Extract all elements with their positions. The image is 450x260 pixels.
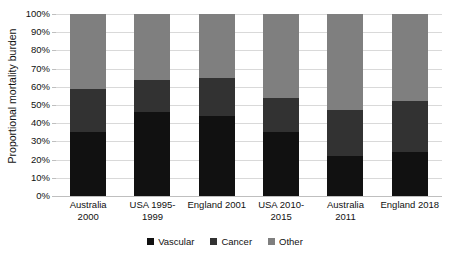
x-axis-tick-label: England 2018 xyxy=(378,199,442,222)
stacked-bar[interactable] xyxy=(327,14,363,196)
bar-segment-other[interactable] xyxy=(263,14,299,98)
bar-segment-cancer[interactable] xyxy=(199,78,235,116)
bar-slot xyxy=(56,14,120,196)
y-axis-tick-label: 80% xyxy=(0,45,50,55)
bar-segment-vascular[interactable] xyxy=(134,112,170,196)
bar-slot xyxy=(249,14,313,196)
bar-segment-cancer[interactable] xyxy=(327,110,363,156)
bar-segment-other[interactable] xyxy=(327,14,363,110)
x-axis-label-line: 2011 xyxy=(314,211,376,223)
gridline xyxy=(56,196,442,197)
x-axis-label-line: England 2018 xyxy=(379,199,441,211)
bar-segment-cancer[interactable] xyxy=(70,89,106,133)
x-axis-tick-label: England 2001 xyxy=(185,199,249,222)
stacked-bar-chart: Proportional mortality burden 0%10%20%30… xyxy=(0,0,450,260)
bar-segment-vascular[interactable] xyxy=(70,132,106,196)
y-axis-tick-label: 60% xyxy=(0,82,50,92)
legend-label: Vascular xyxy=(158,236,194,247)
x-axis-tick-label: USA 1995-1999 xyxy=(120,199,184,222)
y-axis-tick-label: 100% xyxy=(0,9,50,19)
x-axis-label-line: Australia xyxy=(57,199,119,211)
x-axis-label-line: Australia xyxy=(314,199,376,211)
bar-segment-other[interactable] xyxy=(199,14,235,78)
bar-slot xyxy=(378,14,442,196)
bar-segment-other[interactable] xyxy=(70,14,106,89)
x-axis-tick-label: Australia2011 xyxy=(313,199,377,222)
legend-swatch-icon xyxy=(147,238,154,245)
x-axis-label-line: England 2001 xyxy=(186,199,248,211)
legend-item-cancer[interactable]: Cancer xyxy=(210,236,252,247)
bar-segment-vascular[interactable] xyxy=(199,116,235,196)
x-axis-label-line: 2000 xyxy=(57,211,119,223)
bar-segment-vascular[interactable] xyxy=(263,132,299,196)
legend-item-other[interactable]: Other xyxy=(268,236,303,247)
y-axis-tick-label: 90% xyxy=(0,27,50,37)
y-axis-tick-label: 0% xyxy=(0,191,50,201)
y-axis-tick-label: 10% xyxy=(0,173,50,183)
bar-slot xyxy=(185,14,249,196)
plot-area xyxy=(56,14,442,196)
x-axis-tick-label: Australia2000 xyxy=(56,199,120,222)
y-axis-tick-label: 20% xyxy=(0,155,50,165)
bar-segment-cancer[interactable] xyxy=(263,98,299,133)
legend-label: Cancer xyxy=(221,236,252,247)
legend-item-vascular[interactable]: Vascular xyxy=(147,236,194,247)
legend-label: Other xyxy=(279,236,303,247)
bar-group xyxy=(56,14,442,196)
bar-segment-cancer[interactable] xyxy=(392,101,428,152)
stacked-bar[interactable] xyxy=(134,14,170,196)
y-axis-tick-label: 50% xyxy=(0,100,50,110)
bar-segment-other[interactable] xyxy=(134,14,170,80)
chart-legend: VascularCancerOther xyxy=(0,236,450,247)
stacked-bar[interactable] xyxy=(263,14,299,196)
y-axis-tick-labels: 0%10%20%30%40%50%60%70%80%90%100% xyxy=(0,14,50,196)
x-axis-label-line: USA 1995- xyxy=(121,199,183,211)
legend-swatch-icon xyxy=(268,238,275,245)
stacked-bar[interactable] xyxy=(199,14,235,196)
bar-segment-vascular[interactable] xyxy=(392,152,428,196)
stacked-bar[interactable] xyxy=(70,14,106,196)
x-axis-label-line: 2015 xyxy=(250,211,312,223)
y-axis-tick-label: 40% xyxy=(0,118,50,128)
bar-slot xyxy=(120,14,184,196)
y-axis-tick-label: 30% xyxy=(0,136,50,146)
y-axis-tick-label: 70% xyxy=(0,64,50,74)
bar-slot xyxy=(313,14,377,196)
bar-segment-vascular[interactable] xyxy=(327,156,363,196)
x-axis-tick-label: USA 2010-2015 xyxy=(249,199,313,222)
x-axis-label-line: 1999 xyxy=(121,211,183,223)
x-axis-tick-labels: Australia2000USA 1995-1999England 2001US… xyxy=(56,199,442,222)
legend-swatch-icon xyxy=(210,238,217,245)
bar-segment-cancer[interactable] xyxy=(134,80,170,113)
stacked-bar[interactable] xyxy=(392,14,428,196)
x-axis-label-line: USA 2010- xyxy=(250,199,312,211)
bar-segment-other[interactable] xyxy=(392,14,428,101)
